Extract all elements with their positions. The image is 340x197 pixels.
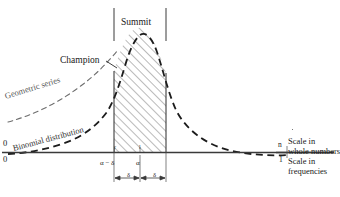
alpha-label: α xyxy=(136,160,140,167)
axis-right-top-label: n xyxy=(278,141,282,149)
scale-whole-line2: whole numbers xyxy=(288,146,340,156)
axis-right-bottom-label: 1 xyxy=(279,156,283,164)
summit-label: Summit xyxy=(121,18,151,28)
scale-freq-line1: Scale in xyxy=(288,156,327,166)
axis-origin-top-label: 0 xyxy=(3,139,7,148)
scale-whole-numbers-label: Scale in whole numbers xyxy=(288,136,340,156)
tick-label-right: l xyxy=(139,144,141,150)
champion-leader-line xyxy=(106,61,117,68)
delta-left-label: δ xyxy=(127,172,130,179)
scale-whole-line1: Scale in xyxy=(288,136,340,146)
paper-speck xyxy=(292,129,293,130)
tick-label-left: r xyxy=(114,144,116,150)
scale-frequencies-label: Scale in frequencies xyxy=(288,156,327,176)
scale-freq-line2: frequencies xyxy=(288,166,327,176)
delta-right-label: δ xyxy=(153,172,156,179)
summit-shaded-region xyxy=(110,20,172,155)
champion-label: Champion xyxy=(60,56,100,66)
alpha-minus-delta-label: α − δ xyxy=(100,160,114,167)
axis-origin-bottom-label: 0 xyxy=(3,155,7,164)
